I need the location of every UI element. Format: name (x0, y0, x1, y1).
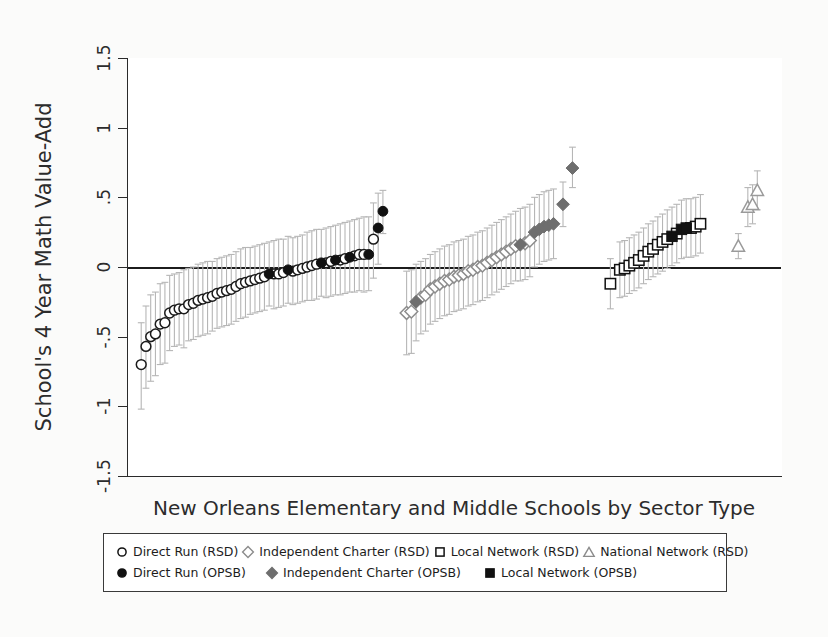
data-point (264, 269, 274, 279)
data-point (566, 162, 579, 175)
error-bars-independent-charter-opsb (413, 147, 576, 341)
data-point (557, 198, 570, 211)
legend-item-independent-charter-opsb[interactable]: Independent Charter (OPSB) (262, 565, 480, 580)
y-tick-label: 1 (94, 106, 114, 150)
legend-label: Direct Run (OPSB) (133, 565, 246, 580)
data-point (316, 258, 326, 268)
y-axis-label-wrap: School's 4 Year Math Value-Add (48, 58, 78, 476)
data-point (160, 318, 170, 328)
legend-item-local-network-opsb[interactable]: Local Network (OPSB) (480, 565, 632, 580)
data-point (732, 240, 744, 251)
square-open-icon (430, 545, 450, 559)
figure-canvas: School's 4 Year Math Value-Add 1.51.50-.… (0, 0, 828, 637)
data-point (695, 219, 705, 229)
legend-item-independent-charter-rsd[interactable]: Independent Charter (RSD) (238, 544, 429, 559)
y-tick-mark (118, 406, 127, 407)
legend-item-local-network-rsd[interactable]: Local Network (RSD) (430, 544, 580, 559)
data-point (681, 223, 691, 233)
chart-legend: Direct Run (RSD)Independent Charter (RSD… (103, 533, 727, 592)
triangle-open-icon (579, 545, 599, 559)
data-point (364, 250, 374, 260)
y-axis-label: School's 4 Year Math Value-Add (32, 58, 56, 476)
y-tick-label: -.5 (94, 315, 114, 359)
y-tick-mark (118, 128, 127, 129)
data-point (141, 342, 151, 352)
data-point (373, 223, 383, 233)
y-tick-mark (118, 197, 127, 198)
data-point (345, 252, 355, 262)
scatter-plot-series (127, 58, 781, 476)
error-bars-independent-charter-rsd (403, 204, 533, 354)
data-point (605, 279, 615, 289)
series-direct-run-rsd (136, 234, 378, 369)
diamond-open-icon (238, 545, 258, 559)
legend-label: Local Network (RSD) (451, 544, 580, 559)
legend-label: Independent Charter (RSD) (259, 544, 429, 559)
data-point (369, 234, 379, 244)
legend-row: Direct Run (OPSB)Independent Charter (OP… (112, 562, 718, 583)
y-tick-label: -1.5 (94, 454, 114, 498)
data-point (151, 329, 161, 339)
legend-label: Local Network (OPSB) (501, 565, 637, 580)
data-point (378, 206, 388, 216)
legend-item-direct-run-rsd[interactable]: Direct Run (RSD) (112, 544, 238, 559)
y-tick-mark (118, 267, 127, 268)
y-tick-label: -1 (94, 384, 114, 428)
data-point (331, 255, 341, 265)
legend-item-national-network-rsd[interactable]: National Network (RSD) (579, 544, 748, 559)
y-tick-mark (118, 337, 127, 338)
legend-label: Direct Run (RSD) (133, 544, 238, 559)
y-tick-label: 1.5 (94, 36, 114, 80)
circle-open-icon (112, 545, 132, 559)
x-axis-label: New Orleans Elementary and Middle School… (127, 496, 781, 520)
data-point (667, 231, 677, 241)
data-point (283, 265, 293, 275)
y-tick-mark (118, 476, 127, 477)
diamond-filled-icon (262, 566, 282, 580)
legend-item-direct-run-opsb[interactable]: Direct Run (OPSB) (112, 565, 262, 580)
y-tick-label: .5 (94, 175, 114, 219)
circle-filled-icon (112, 566, 132, 580)
square-filled-icon (480, 566, 500, 580)
legend-label: Independent Charter (OPSB) (283, 565, 461, 580)
legend-row: Direct Run (RSD)Independent Charter (RSD… (112, 541, 718, 562)
data-point (136, 360, 146, 370)
legend-label: National Network (RSD) (600, 544, 748, 559)
y-tick-mark (118, 58, 127, 59)
y-tick-label: 0 (94, 245, 114, 289)
